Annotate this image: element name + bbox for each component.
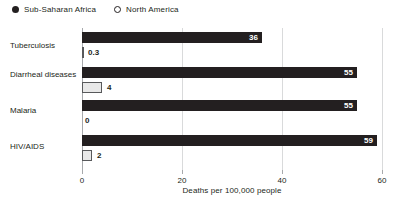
x-tick-40 <box>282 170 283 174</box>
category-label-malaria: Malaria <box>10 106 78 116</box>
bar-value-label: 55 <box>344 67 353 78</box>
x-tick-label-0: 0 <box>80 176 84 185</box>
gridline-40 <box>282 28 283 170</box>
bar-value-label: 55 <box>344 100 353 111</box>
bar-north-america-hiv-aids <box>82 150 92 161</box>
x-tick-label-60: 60 <box>378 176 387 185</box>
x-tick-label-40: 40 <box>278 176 287 185</box>
bar-sub-saharan-africa-tuberculosis: 36 <box>82 32 262 43</box>
category-label-hiv-aids: HIV/AIDS <box>10 142 78 152</box>
bar-north-america-diarrheal-diseases <box>82 82 102 93</box>
bar-value-label: 4 <box>107 82 111 93</box>
x-axis-title: Deaths per 100,000 people <box>82 186 382 195</box>
gridline-20 <box>182 28 183 170</box>
bar-sub-saharan-africa-hiv-aids: 59 <box>82 135 377 146</box>
category-label-diarrheal-diseases: Diarrheal diseases <box>10 70 78 80</box>
bar-sub-saharan-africa-diarrheal-diseases: 55 <box>82 67 357 78</box>
x-tick-20 <box>182 170 183 174</box>
bar-value-label: 59 <box>364 135 373 146</box>
category-label-tuberculosis: Tuberculosis <box>10 41 78 51</box>
bar-sub-saharan-africa-malaria: 55 <box>82 100 357 111</box>
gridline-60 <box>382 28 383 170</box>
bar-value-label: 2 <box>97 150 101 161</box>
bar-value-label: 0.3 <box>88 47 99 58</box>
x-tick-0 <box>82 170 83 174</box>
bar-value-label: 36 <box>249 32 258 43</box>
bar-value-label: 0 <box>85 115 89 126</box>
x-tick-60 <box>382 170 383 174</box>
bar-north-america-tuberculosis <box>82 47 84 58</box>
bar-chart: 0 20 40 60 Deaths per 100,000 people Tub… <box>0 0 403 197</box>
x-tick-label-20: 20 <box>178 176 187 185</box>
